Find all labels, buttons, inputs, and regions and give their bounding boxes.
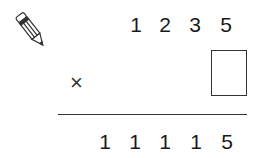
product-digit: 1 xyxy=(95,131,115,152)
sum-line xyxy=(58,114,247,115)
multiplicand-digit: 3 xyxy=(185,14,205,35)
product-digit: 1 xyxy=(186,131,206,152)
product-digit: 1 xyxy=(125,131,145,152)
multiply-operator: × xyxy=(70,72,83,94)
pencil-icon xyxy=(14,10,48,50)
product-digit: 5 xyxy=(217,131,237,152)
multiplicand-digit: 1 xyxy=(126,14,146,35)
multiplicand-digit: 2 xyxy=(155,14,175,35)
product-digit: 1 xyxy=(155,131,175,152)
multiplier-answer-box[interactable] xyxy=(211,50,247,96)
multiplicand-digit: 5 xyxy=(216,14,236,35)
